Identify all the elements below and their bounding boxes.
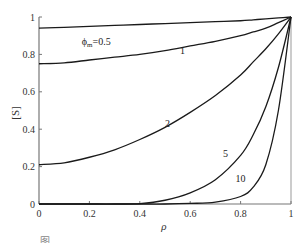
y-tick-label: 0	[30, 199, 35, 210]
curve-series-2	[39, 17, 291, 165]
y-tick-label: 0.2	[23, 161, 36, 172]
x-tick-label: 0.6	[184, 208, 197, 219]
x-tick-label: 0.8	[234, 208, 247, 219]
x-tick-label: 0.4	[134, 208, 147, 219]
curve-series-4	[39, 17, 291, 204]
x-axis-label: ρ	[160, 220, 166, 232]
y-axis-label: [S]	[9, 106, 21, 119]
x-tick-label: 0.2	[83, 208, 96, 219]
curve-label-1: 1	[180, 45, 185, 56]
curve-label-3: 5	[223, 148, 228, 159]
plot-curves	[39, 17, 291, 204]
curve-series-0	[39, 17, 291, 28]
x-tick-label: 0	[37, 208, 42, 219]
y-tick-label: 0.6	[23, 86, 36, 97]
curve-label-0: ϕm=0.5	[82, 36, 111, 49]
curve-label-2: 2	[165, 118, 170, 129]
y-tick-label: 1	[30, 12, 35, 23]
x-tick-label: 1	[289, 208, 294, 219]
y-tick-label: 0.8	[23, 49, 36, 60]
curve-label-4: 10	[236, 173, 246, 184]
figure-caption: 图 ……	[40, 233, 270, 243]
y-tick-label: 0.4	[23, 124, 36, 135]
curve-series-3	[39, 17, 291, 204]
